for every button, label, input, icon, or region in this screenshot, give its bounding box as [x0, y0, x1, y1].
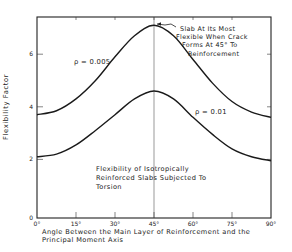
- chart-caption-line: Torsion: [95, 183, 122, 191]
- x-tick-label: 45°: [149, 220, 160, 227]
- y-tick-label: 6: [29, 50, 33, 57]
- y-tick-label: 2: [29, 155, 33, 162]
- chart-canvas: 0°15°30°45°60°75°90°0246ρ = 0.005ρ = 0.0…: [0, 0, 292, 252]
- annotation-text-line: Flexible When Crack: [176, 33, 248, 41]
- y-axis-label: Flexibility Factor: [2, 74, 10, 140]
- plot-area: 0°15°30°45°60°75°90°0246ρ = 0.005ρ = 0.0…: [29, 17, 276, 227]
- x-tick-label: 90°: [266, 220, 277, 227]
- y-tick-label: 4: [29, 103, 33, 110]
- x-tick-label: 30°: [110, 220, 121, 227]
- series-label-rho-0005: ρ = 0.005: [74, 58, 111, 66]
- x-axis-label: Angle Between the Main Layer of Reinforc…: [42, 228, 250, 244]
- x-tick-label: 15°: [71, 220, 82, 227]
- series-label-rho-001: ρ = 0.01: [195, 108, 227, 116]
- x-tick-label: 75°: [227, 220, 238, 227]
- x-tick-label: 0°: [34, 220, 41, 227]
- annotation-text-line: Forms At 45° To: [182, 41, 238, 49]
- annotation-text-line: Slab At Its Most: [180, 25, 235, 33]
- annotation-text-line: Reinforcement: [188, 50, 239, 58]
- chart-caption-line: Reinforced Slabs Subjected To: [96, 174, 207, 182]
- chart-caption-line: Flexibility of Isotropically: [96, 165, 189, 173]
- x-tick-label: 60°: [188, 220, 199, 227]
- y-tick-label: 0: [29, 214, 33, 221]
